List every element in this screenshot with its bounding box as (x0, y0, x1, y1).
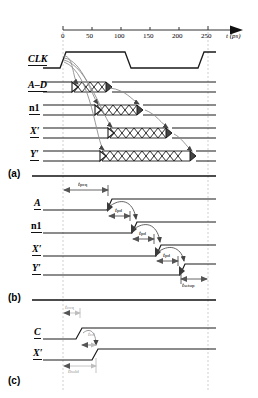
axis-tick-150: 150 (143, 32, 154, 40)
waveform-a-d (43, 82, 216, 92)
waveform-c (43, 328, 216, 339)
annotation-label-tpd-1: tpd (115, 206, 122, 214)
annotation-label-tpd-2: tpd (139, 229, 146, 237)
panel-label-a: (a) (8, 168, 20, 179)
tpcq-subscript: pcq (80, 182, 87, 187)
axis-label-time: t (ps) (226, 32, 241, 40)
waveform-n1 (43, 105, 216, 115)
waveform-n1-b (43, 222, 216, 233)
waveform-y-prime-a (43, 151, 216, 161)
signal-label-c: C (34, 326, 41, 339)
signal-label-n1: n1 (29, 102, 40, 115)
waveform-x-prime-b (43, 245, 216, 256)
tpd1-subscript: pd (117, 208, 122, 213)
axis-tick-100: 100 (114, 32, 125, 40)
edge-marker-y (179, 266, 185, 276)
annotation-label-tsetup: tsetup (182, 281, 195, 289)
waveform-y-prime-b (43, 264, 216, 275)
signal-label-x-prime-b: X′ (32, 243, 41, 256)
tsetup-subscript: setup (184, 283, 195, 288)
signal-label-clk: CLK (28, 53, 47, 66)
panel-label-b: (b) (8, 292, 21, 303)
panel-b-waveforms (43, 185, 216, 284)
tcd-subscript: cd (90, 332, 95, 337)
tpd2-subscript: pd (141, 231, 146, 236)
signal-label-y-prime-b: Y′ (32, 262, 41, 275)
signal-label-a-d: A–D (28, 79, 47, 92)
thold-subscript: hold (70, 369, 79, 374)
annotation-label-tcd: tcd (88, 330, 95, 338)
axis-tick-250: 250 (201, 32, 212, 40)
waveform-x-prime-a (43, 128, 216, 138)
annotation-label-tpd-3: tpd (163, 251, 170, 259)
signal-label-x-prime-a: X′ (30, 125, 39, 138)
signal-label-y-prime-a: Y′ (30, 148, 39, 161)
waveform-x-prime-c (43, 349, 216, 360)
signal-label-n1-b: n1 (31, 220, 42, 233)
signal-label-x-prime-c: X′ (33, 347, 42, 360)
axis-tick-50: 50 (86, 32, 93, 40)
annotation-label-tpcq: tpcq (78, 180, 87, 188)
panel-c-waveforms (43, 308, 216, 373)
tpd3-subscript: pd (165, 253, 170, 258)
timing-diagram-figure: 0 50 100 150 200 250 t (ps) CLK A–D n1 X… (0, 0, 258, 398)
annotation-label-thold: thold (68, 367, 79, 375)
annotation-label-tccq: tccq (65, 303, 74, 311)
axis-tick-200: 200 (172, 32, 183, 40)
causality-arcs-a (64, 56, 192, 151)
tccq-subscript: ccq (67, 305, 74, 310)
panel-a-waveforms (43, 52, 216, 161)
panel-label-c: (c) (8, 375, 20, 386)
waveform-clk (43, 52, 216, 68)
axis-tick-0: 0 (61, 32, 65, 40)
signal-label-a-b: A (34, 197, 41, 210)
